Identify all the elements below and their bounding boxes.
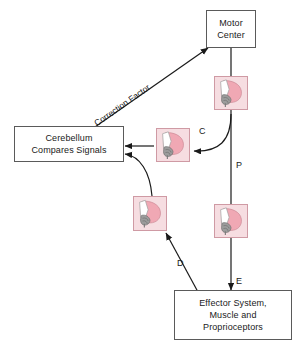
node-effector-system-line3: Proprioceptors bbox=[203, 321, 263, 333]
node-effector-system-line2: Muscle and bbox=[209, 309, 256, 321]
edge-label-d: D bbox=[177, 258, 184, 268]
edge-label-c: C bbox=[199, 126, 206, 136]
diagram-canvas: Motor Center Cerebellum Compares Signals… bbox=[0, 0, 304, 351]
node-cerebellum[interactable]: Cerebellum Compares Signals bbox=[14, 126, 124, 162]
node-motor-center-line2: Center bbox=[217, 29, 245, 41]
brain-sagittal-icon-d bbox=[133, 196, 167, 231]
node-motor-center-line1: Motor bbox=[219, 17, 243, 29]
brain-sagittal-icon-top-right bbox=[214, 76, 248, 110]
node-effector-system[interactable]: Effector System, Muscle and Propriocepto… bbox=[174, 290, 292, 340]
node-motor-center[interactable]: Motor Center bbox=[206, 10, 256, 48]
node-effector-system-line1: Effector System, bbox=[199, 297, 266, 309]
edge-label-p: P bbox=[236, 160, 242, 170]
node-cerebellum-line2: Compares Signals bbox=[31, 144, 106, 156]
brain-sagittal-icon-p bbox=[214, 204, 248, 238]
node-cerebellum-line1: Cerebellum bbox=[45, 132, 92, 144]
edge-d-icon-to-cerebellum bbox=[125, 154, 152, 196]
edge-label-e: E bbox=[236, 276, 242, 286]
brain-sagittal-icon-c bbox=[156, 128, 190, 162]
